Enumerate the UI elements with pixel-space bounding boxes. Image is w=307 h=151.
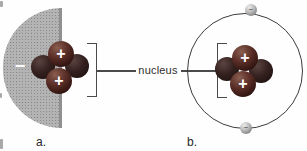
page-edge-artifact xyxy=(0,93,2,98)
panel-b-label: b. xyxy=(187,135,197,149)
plus-charge-symbol: + xyxy=(56,46,65,62)
panel-a-label: a. xyxy=(36,135,46,149)
plus-charge-symbol: + xyxy=(240,50,249,66)
minus-charge-symbol: − xyxy=(249,6,254,14)
plus-charge-symbol: + xyxy=(238,76,247,92)
atomic-models-figure: − + + nucleus + + − − a. b. xyxy=(0,0,307,151)
callout-line-left xyxy=(96,70,136,72)
proton-sphere: + xyxy=(230,71,256,97)
electron-sphere: − xyxy=(245,4,257,16)
minus-charge-symbol: − xyxy=(244,124,249,132)
proton-sphere: + xyxy=(232,45,258,71)
plus-charge-symbol: + xyxy=(54,73,63,89)
page-edge-artifact xyxy=(0,139,3,149)
nucleus-label: nucleus xyxy=(134,64,182,76)
proton-sphere: + xyxy=(48,41,74,67)
electron-sphere: − xyxy=(240,122,252,134)
page-edge-artifact xyxy=(0,1,3,7)
negative-charge-symbol: − xyxy=(11,60,29,74)
proton-sphere: + xyxy=(46,68,72,94)
